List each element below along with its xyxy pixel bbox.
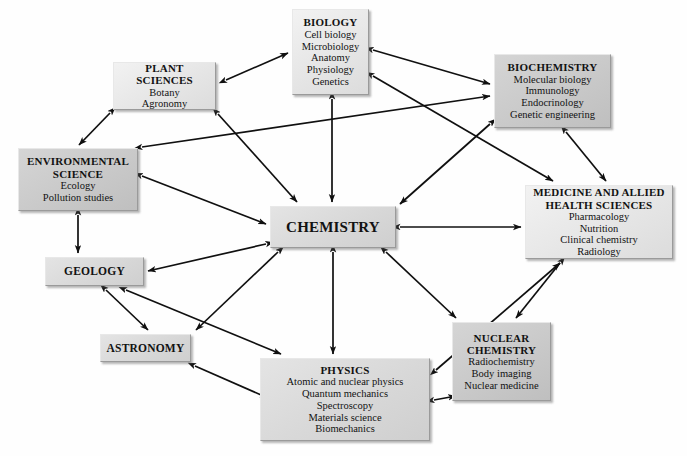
node-item-biochemistry-1: Immunology bbox=[525, 85, 579, 97]
node-item-physics-4: Biomechanics bbox=[315, 423, 374, 435]
node-item-biology-4: Genetics bbox=[312, 76, 349, 88]
edge-chemistry-to-astronomy bbox=[196, 252, 278, 330]
node-item-nuclear-chemistry-0: Radiochemistry bbox=[468, 356, 535, 368]
node-item-plant-sciences-1: Agronomy bbox=[142, 98, 188, 110]
edge-biochemistry-to-medicine bbox=[566, 132, 606, 181]
node-title-physics: PHYSICS bbox=[320, 364, 369, 376]
node-title-chemistry: CHEMISTRY bbox=[286, 219, 380, 236]
node-item-biology-3: Physiology bbox=[307, 64, 354, 76]
node-biology[interactable]: BIOLOGYCell biologyMicrobiologyAnatomyPh… bbox=[292, 9, 369, 95]
node-title-medicine: MEDICINE AND ALLIED HEALTH SCIENCES bbox=[530, 186, 668, 211]
node-geology[interactable]: GEOLOGY bbox=[45, 257, 144, 286]
node-item-biochemistry-3: Genetic engineering bbox=[510, 109, 595, 121]
node-item-biology-2: Anatomy bbox=[311, 52, 350, 64]
edge-plant-sciences-to-environmental-science bbox=[79, 113, 110, 145]
node-astronomy[interactable]: ASTRONOMY bbox=[100, 334, 191, 362]
node-biochemistry[interactable]: BIOCHEMISTRYMolecular biologyImmunologyE… bbox=[494, 54, 611, 128]
node-item-medicine-0: Pharmacology bbox=[569, 211, 630, 223]
node-item-biology-0: Cell biology bbox=[304, 29, 356, 41]
node-item-nuclear-chemistry-2: Nuclear medicine bbox=[464, 380, 538, 392]
node-item-environmental-science-1: Pollution studies bbox=[43, 192, 113, 204]
node-item-physics-1: Quantum mechanics bbox=[302, 388, 388, 400]
node-title-geology: GEOLOGY bbox=[64, 265, 125, 278]
edge-biology-to-biochemistry bbox=[373, 50, 490, 84]
node-item-plant-sciences-0: Botany bbox=[149, 87, 179, 99]
edge-plant-sciences-to-biology bbox=[226, 53, 288, 80]
node-title-astronomy: ASTRONOMY bbox=[107, 342, 185, 355]
node-item-biochemistry-2: Endocrinology bbox=[521, 97, 583, 109]
node-item-medicine-2: Clinical chemistry bbox=[560, 234, 637, 246]
node-title-plant-sciences: PLANT SCIENCES bbox=[118, 62, 211, 87]
node-title-environmental-science: ENVIRONMENTAL SCIENCE bbox=[23, 155, 133, 180]
node-title-biology: BIOLOGY bbox=[304, 16, 358, 28]
edge-medicine-to-nuclear-chemistry bbox=[516, 263, 560, 318]
node-item-biology-1: Microbiology bbox=[302, 41, 360, 53]
node-item-nuclear-chemistry-1: Body imaging bbox=[472, 368, 532, 380]
node-item-physics-3: Materials science bbox=[308, 412, 381, 424]
edge-environmental-science-to-chemistry bbox=[142, 176, 266, 224]
node-item-physics-2: Spectroscopy bbox=[317, 400, 374, 412]
edge-plant-sciences-to-chemistry bbox=[218, 114, 297, 202]
node-environmental-science[interactable]: ENVIRONMENTAL SCIENCEEcologyPollution st… bbox=[18, 148, 138, 211]
edge-astronomy-to-physics bbox=[195, 366, 268, 398]
edge-chemistry-to-nuclear-chemistry bbox=[386, 252, 456, 318]
edge-biochemistry-to-chemistry bbox=[400, 124, 490, 204]
node-item-medicine-3: Radiology bbox=[577, 246, 621, 258]
node-medicine[interactable]: MEDICINE AND ALLIED HEALTH SCIENCESPharm… bbox=[525, 185, 673, 259]
node-plant-sciences[interactable]: PLANT SCIENCESBotanyAgronomy bbox=[113, 62, 216, 110]
science-relationship-diagram: BIOLOGYCell biologyMicrobiologyAnatomyPh… bbox=[0, 0, 687, 456]
node-physics[interactable]: PHYSICSAtomic and nuclear physicsQuantum… bbox=[260, 358, 430, 441]
edge-chemistry-to-geology bbox=[148, 244, 266, 271]
node-title-biochemistry: BIOCHEMISTRY bbox=[507, 61, 597, 73]
node-item-physics-0: Atomic and nuclear physics bbox=[287, 376, 404, 388]
node-nuclear-chemistry[interactable]: NUCLEAR CHEMISTRYRadiochemistryBody imag… bbox=[452, 322, 551, 401]
node-title-nuclear-chemistry: NUCLEAR CHEMISTRY bbox=[457, 332, 546, 357]
node-item-environmental-science-0: Ecology bbox=[61, 180, 96, 192]
node-item-biochemistry-0: Molecular biology bbox=[514, 74, 592, 86]
node-item-medicine-1: Nutrition bbox=[580, 223, 619, 235]
node-chemistry[interactable]: CHEMISTRY bbox=[270, 206, 396, 248]
